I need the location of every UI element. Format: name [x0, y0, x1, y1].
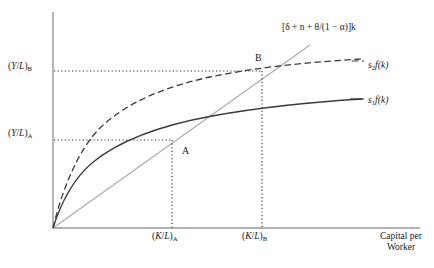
break-even-line-label: [δ + n + θ/(1 − α)]k [282, 22, 356, 33]
equilibrium-label-b: B [255, 52, 262, 64]
curve-label-s1: s1f(k) [368, 95, 388, 106]
y-tick-label-b: (Y/L)B [8, 61, 32, 72]
chart-canvas [0, 0, 434, 268]
curve-s2-f-k [53, 59, 362, 228]
equilibrium-label-a: A [182, 145, 189, 157]
curve-label-s2: s2f(k) [368, 60, 388, 71]
solow-growth-diagram: (Y/L)B (Y/L)A (K/L)A (K/L)B A B [δ + n +… [0, 0, 434, 268]
x-tick-label-b: (K/L)B [242, 231, 267, 242]
break-even-line [53, 45, 310, 228]
x-tick-label-a: (K/L)A [152, 231, 178, 242]
x-axis-title-line2: Worker [387, 242, 415, 252]
x-axis-title-line1: Capital per [380, 231, 422, 241]
y-tick-label-a: (Y/L)A [8, 128, 33, 139]
x-axis-title: Capital per Worker [370, 231, 432, 253]
